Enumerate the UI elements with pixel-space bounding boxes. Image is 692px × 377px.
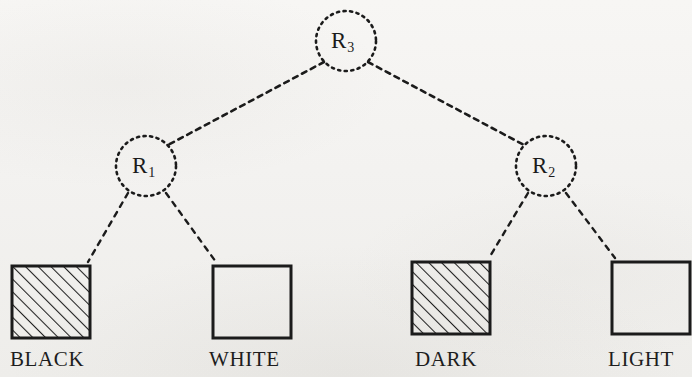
node-label-r1-subscript: 1	[148, 165, 155, 180]
figure-canvas: R3 R1 R2 BLACK WHITE DARK LIGHT	[0, 0, 692, 377]
leaf-caption-black: BLACK	[10, 349, 84, 370]
edge-r1-black	[88, 193, 128, 262]
node-label-r2-base: R	[532, 153, 547, 178]
node-label-r3-subscript: 3	[347, 40, 354, 55]
node-label-r1-base: R	[132, 153, 147, 178]
edge-r3-r2	[368, 62, 524, 145]
edge-r2-dark	[489, 193, 528, 258]
leaf-caption-white: WHITE	[209, 349, 280, 370]
edge-r3-r1	[168, 62, 324, 145]
node-label-r3: R3	[331, 29, 354, 55]
node-label-r2: R2	[532, 154, 555, 180]
edge-r1-white	[166, 193, 216, 262]
leaf-caption-light: LIGHT	[608, 349, 674, 370]
node-label-r2-subscript: 2	[548, 165, 555, 180]
leaf-square-dark	[412, 262, 490, 334]
edge-r2-light	[566, 193, 615, 258]
tree-diagram-svg	[0, 0, 692, 377]
leaf-square-black	[12, 266, 90, 338]
leaf-caption-dark: DARK	[415, 349, 477, 370]
leaf-square-light	[612, 262, 690, 334]
node-label-r1: R1	[132, 154, 155, 180]
node-label-r3-base: R	[331, 28, 346, 53]
leaf-square-white	[213, 266, 291, 338]
